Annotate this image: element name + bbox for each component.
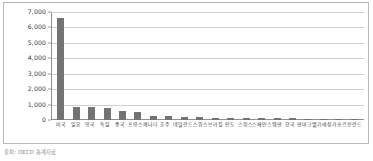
bar-slot: [331, 12, 346, 120]
x-tick-slot: 독일: [98, 122, 113, 142]
x-tick-label: 한국: [285, 122, 295, 127]
x-tick-label: 캐나다: [143, 122, 157, 127]
x-tick-slot: 중국: [113, 122, 128, 142]
bar-slot: [208, 12, 223, 120]
bar[interactable]: [351, 119, 358, 120]
x-tick-label: 중국: [116, 122, 126, 127]
bar-slot: [269, 12, 284, 120]
bar[interactable]: [212, 118, 219, 120]
chart-page: 01,0002,0003,0004,0005,0006,0007,000 미국일…: [0, 0, 373, 161]
bar-slot: [300, 12, 315, 120]
bar-slot: [177, 12, 192, 120]
x-tick-slot: 캐나다: [143, 122, 158, 142]
x-tick-slot: 한국: [282, 122, 297, 142]
bar[interactable]: [165, 116, 172, 120]
bar-slot: [238, 12, 253, 120]
y-tick-label: 3,000: [28, 71, 46, 77]
x-tick-slot: 프랑스: [128, 122, 143, 142]
bar[interactable]: [258, 118, 265, 120]
x-tick-slot: 호주: [158, 122, 173, 142]
x-tick-slot: 네덜란드: [173, 122, 193, 142]
x-tick-slot: 인도: [223, 122, 238, 142]
x-tick-label: 벨기에: [313, 122, 327, 127]
bar-slot: [254, 12, 269, 120]
x-tick-slot: 벨기에: [312, 122, 327, 142]
bar-slot: [285, 12, 300, 120]
bar[interactable]: [243, 118, 250, 120]
x-tick-label: 호주: [161, 122, 171, 127]
x-tick-slot: 싱가포르: [327, 122, 347, 142]
bar[interactable]: [150, 116, 157, 120]
x-tick-label: 독일: [101, 122, 111, 127]
bar[interactable]: [227, 118, 234, 120]
bar-slot: [316, 12, 331, 120]
bar-slot: [161, 12, 176, 120]
x-tick-slot: 미국: [53, 122, 68, 142]
bar[interactable]: [88, 107, 95, 120]
chart-figure-frame: 01,0002,0003,0004,0005,0006,0007,000 미국일…: [3, 2, 369, 144]
x-tick-label: 싱가포르: [328, 122, 347, 127]
plot-area: [51, 12, 364, 120]
y-tick-label: 0: [42, 117, 46, 123]
plot-wrapper: 01,0002,0003,0004,0005,0006,0007,000 미국일…: [4, 3, 368, 143]
x-axis: 미국일본영국독일중국프랑스캐나다호주네덜란드스위스브라질인도스위스스페인스웨덴한…: [51, 122, 364, 142]
y-tick-label: 1,000: [28, 101, 46, 107]
bar-slot: [99, 12, 114, 120]
bar[interactable]: [274, 118, 281, 120]
y-tick-label: 2,000: [28, 86, 46, 92]
x-tick-label: 스위스: [238, 122, 252, 127]
y-tick-label: 4,000: [28, 55, 46, 61]
x-tick-label: 스페인: [253, 122, 267, 127]
x-tick-slot: 덴마크: [297, 122, 312, 142]
bar[interactable]: [289, 118, 296, 120]
x-tick-slot: 영국: [83, 122, 98, 142]
x-tick-label: 네덜란드: [173, 122, 192, 127]
bar-slot: [130, 12, 145, 120]
bar[interactable]: [196, 117, 203, 120]
y-tick-label: 5,000: [28, 40, 46, 46]
bar[interactable]: [73, 107, 80, 120]
bar[interactable]: [104, 108, 111, 120]
x-tick-slot: 브라질: [208, 122, 223, 142]
x-tick-label: 스위스: [193, 122, 207, 127]
y-tick-label: 6,000: [28, 24, 46, 30]
bar[interactable]: [134, 112, 141, 120]
bar-slot: [192, 12, 207, 120]
bar-slot: [223, 12, 238, 120]
x-tick-label: 프랑스: [128, 122, 142, 127]
bar-slot: [146, 12, 161, 120]
x-tick-slot: 스웨덴: [267, 122, 282, 142]
chart-source-caption: 출처: OECD 통계자료: [4, 149, 56, 155]
x-tick-label: 덴마크: [298, 122, 312, 127]
x-tick-slot: 스위스: [237, 122, 252, 142]
x-tick-slot: 스위스: [193, 122, 208, 142]
bar-slot: [115, 12, 130, 120]
x-tick-slot: 핀란드: [347, 122, 362, 142]
x-tick-label: 스웨덴: [268, 122, 282, 127]
bar[interactable]: [119, 111, 126, 120]
x-tick-label: 브라질: [208, 122, 222, 127]
x-tick-label: 미국: [56, 122, 66, 127]
bar-slot: [84, 12, 99, 120]
bar[interactable]: [57, 18, 64, 120]
x-tick-label: 인도: [225, 122, 235, 127]
x-tick-slot: 스페인: [252, 122, 267, 142]
y-tick-label: 7,000: [28, 9, 46, 15]
x-tick-slot: 일본: [68, 122, 83, 142]
bar-slot: [347, 12, 362, 120]
bar[interactable]: [335, 119, 342, 120]
bar-series: [51, 12, 364, 120]
bar-slot: [53, 12, 68, 120]
bar-slot: [68, 12, 83, 120]
bar[interactable]: [320, 119, 327, 120]
x-tick-label: 영국: [86, 122, 96, 127]
y-axis: 01,0002,0003,0004,0005,0006,0007,000: [10, 12, 46, 120]
bar[interactable]: [181, 117, 188, 120]
x-tick-label: 일본: [71, 122, 81, 127]
x-tick-label: 핀란드: [347, 122, 361, 127]
bar[interactable]: [304, 119, 311, 120]
